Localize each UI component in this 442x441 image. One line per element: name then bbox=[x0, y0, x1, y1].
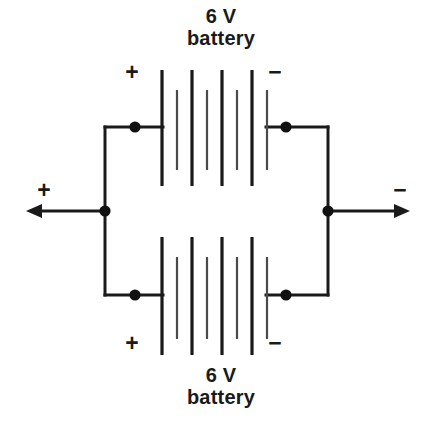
top-battery-negative-sign: − bbox=[264, 60, 286, 85]
junction-dot-bottom-right bbox=[280, 289, 291, 300]
junction-dot-bottom-left bbox=[129, 289, 140, 300]
top-battery-symbol bbox=[162, 70, 267, 186]
right-terminal-arrowhead-icon bbox=[394, 204, 410, 218]
top-battery-voltage-label: 6 V bbox=[141, 6, 301, 28]
right-bus-wires bbox=[266, 127, 328, 295]
bottom-battery-negative-sign: − bbox=[264, 331, 286, 356]
bottom-battery-positive-sign: + bbox=[121, 331, 143, 356]
bottom-battery-name-label: battery bbox=[141, 387, 301, 409]
left-output-terminal bbox=[26, 204, 105, 218]
bottom-battery-voltage-label: 6 V bbox=[141, 365, 301, 387]
bottom-battery-caption: 6 V battery bbox=[141, 365, 301, 408]
junction-dots bbox=[99, 121, 333, 300]
junction-dot-left-bus bbox=[99, 205, 110, 216]
circuit-diagram: 6 V battery 6 V battery + − + − + − bbox=[0, 0, 442, 441]
top-battery-positive-sign: + bbox=[121, 60, 143, 85]
bottom-battery-symbol bbox=[162, 237, 267, 355]
right-output-terminal bbox=[328, 204, 410, 218]
junction-dot-right-bus bbox=[322, 205, 333, 216]
top-battery-caption: 6 V battery bbox=[141, 6, 301, 49]
right-terminal-polarity-sign: − bbox=[389, 178, 411, 203]
left-terminal-polarity-sign: + bbox=[33, 178, 55, 203]
left-terminal-arrowhead-icon bbox=[26, 204, 42, 218]
top-battery-name-label: battery bbox=[141, 28, 301, 50]
left-bus-wires bbox=[105, 127, 163, 295]
junction-dot-top-left bbox=[129, 121, 140, 132]
junction-dot-top-right bbox=[280, 121, 291, 132]
